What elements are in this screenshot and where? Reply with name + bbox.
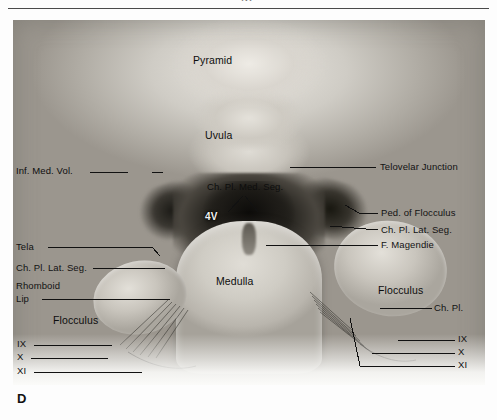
label-nerve-ix-right: IX — [458, 334, 467, 344]
label-nerve-x-right: X — [458, 347, 464, 357]
running-head-fragment: gy — [0, 0, 497, 1]
label-pyramid: Pyramid — [193, 55, 232, 66]
label-medulla: Medulla — [216, 276, 253, 287]
label-ch-pl-right: Ch. Pl. — [434, 303, 463, 313]
label-flocculus-left: Flocculus — [53, 315, 98, 326]
figure-page: gy — [0, 0, 497, 420]
label-nerve-x-left: X — [17, 352, 23, 362]
label-ch-pl-med-seg: Ch. Pl. Med. Seg. — [207, 182, 283, 192]
label-uvula: Uvula — [205, 130, 232, 141]
label-ch-pl-lat-seg-right: Ch. Pl. Lat. Seg. — [381, 225, 452, 235]
label-nerve-xi-left: XI — [17, 366, 26, 376]
photo-bottom-fade — [13, 334, 485, 385]
label-fourth-ventricle: 4V — [205, 212, 217, 222]
panel-letter: D — [17, 391, 26, 406]
label-inf-med-vol: Inf. Med. Vol. — [16, 166, 73, 176]
label-rhomboid: Rhomboid — [16, 281, 60, 291]
label-telovelar-junction: Telovelar Junction — [380, 162, 458, 172]
dissection-photograph — [13, 20, 485, 385]
label-ch-pl-lat-seg-left: Ch. Pl. Lat. Seg. — [16, 263, 87, 273]
label-tela: Tela — [16, 242, 34, 252]
label-f-magendie: F. Magendie — [381, 240, 434, 250]
photo-median-sulcus — [242, 223, 256, 256]
label-lip: Lip — [16, 294, 29, 304]
header-rule — [8, 8, 489, 9]
label-nerve-ix-left: IX — [17, 339, 26, 349]
label-flocculus-right: Flocculus — [378, 285, 423, 296]
label-ped-of-flocculus: Ped. of Flocculus — [381, 208, 456, 218]
label-nerve-xi-right: XI — [458, 360, 467, 370]
